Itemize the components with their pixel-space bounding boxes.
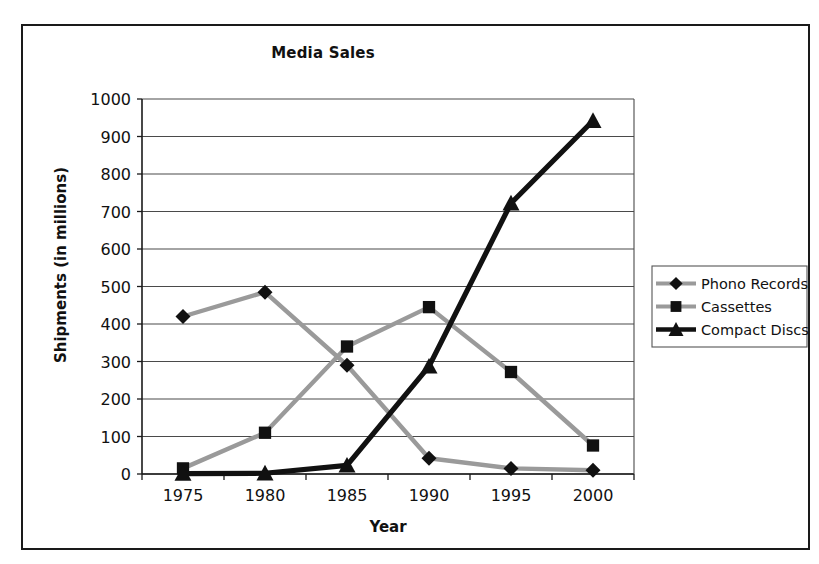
square-marker [671,301,682,312]
y-tick-label: 600 [100,240,131,259]
square-marker [341,340,353,352]
y-tick-label: 1000 [90,90,131,109]
square-marker [259,427,271,439]
chart-legend: Phono RecordsCassettesCompact Discs [652,266,809,347]
square-marker [423,301,435,313]
legend-label: Compact Discs [701,322,809,338]
legend-label: Phono Records [701,276,808,292]
x-tick-label: 1985 [327,486,368,505]
chart-frame: Media Sales Shipments (in millions) Year… [21,24,810,550]
y-tick-label: 500 [100,278,131,297]
x-axis-ticks: 197519801985199019952000 [142,474,634,505]
legend-label: Cassettes [701,299,772,315]
data-series [175,112,602,481]
y-tick-label: 800 [100,165,131,184]
x-tick-label: 1990 [409,486,450,505]
series-line [183,307,593,468]
y-tick-label: 400 [100,315,131,334]
y-tick-label: 200 [100,390,131,409]
y-tick-label: 900 [100,128,131,147]
x-tick-label: 2000 [573,486,614,505]
square-marker [505,366,517,378]
y-tick-label: 700 [100,203,131,222]
triangle-marker [585,112,602,128]
diamond-marker [176,309,191,324]
series-cassettes [177,301,599,475]
diamond-marker [586,463,601,478]
x-tick-label: 1975 [163,486,204,505]
x-tick-label: 1980 [245,486,286,505]
series-compact-discs [175,112,602,481]
x-tick-label: 1995 [491,486,532,505]
y-axis-ticks: 01002003004005006007008009001000 [90,90,142,484]
y-tick-label: 0 [121,465,131,484]
y-tick-label: 100 [100,428,131,447]
y-tick-label: 300 [100,353,131,372]
square-marker [587,439,599,451]
series-phono-records [176,285,601,478]
plot-area: 01002003004005006007008009001000 1975198… [23,26,812,552]
